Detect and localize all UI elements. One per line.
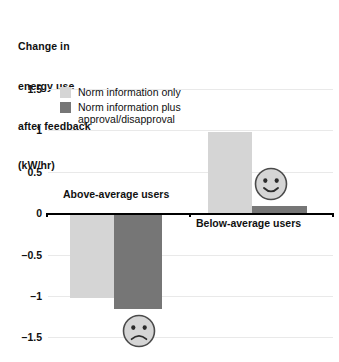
chart-figure: Change in energy use after feedback (kW/…: [0, 0, 339, 362]
legend: Norm information only Norm information p…: [60, 86, 181, 128]
axis-tick-left: [46, 213, 48, 217]
legend-item-norm-info-plus-approval[interactable]: Norm information plus approval/disapprov…: [60, 101, 181, 126]
bar-above-average-norm-info-plus-approval[interactable]: [114, 214, 162, 309]
bar-above-average-norm-info-only[interactable]: [70, 214, 114, 298]
group-label-above-average: Above-average users: [63, 188, 169, 200]
y-tick-label-0: 0: [2, 207, 42, 219]
legend-swatch-light-icon: [60, 87, 71, 98]
smiling-face-icon: [253, 166, 289, 202]
gridline-1: [48, 130, 333, 131]
y-tick-label--0.5: –0.5: [2, 249, 42, 261]
plot-area: 1.5 1 0.5 0 –0.5 –1 –1.5 Above-average u…: [0, 0, 339, 362]
bar-below-average-norm-info-only[interactable]: [208, 132, 252, 213]
y-tick-label--1.5: –1.5: [2, 331, 42, 343]
legend-label-norm-info-only: Norm information only: [78, 86, 181, 99]
gridline--1.5: [48, 337, 333, 338]
axis-tick-middle: [189, 213, 191, 217]
legend-swatch-dark-icon: [60, 102, 71, 113]
group-label-below-average: Below-average users: [196, 217, 301, 229]
frowning-face-icon: [121, 313, 157, 349]
y-tick-label-1: 1: [2, 124, 42, 136]
y-tick-label--1: –1: [2, 290, 42, 302]
axis-tick-right: [332, 213, 334, 217]
y-tick-label-0.5: 0.5: [2, 166, 42, 178]
legend-label-norm-info-plus-approval: Norm information plus approval/disapprov…: [78, 101, 181, 126]
legend-item-norm-info-only[interactable]: Norm information only: [60, 86, 181, 99]
y-tick-label-1.5: 1.5: [2, 83, 42, 95]
gridline-0.5: [48, 172, 333, 173]
